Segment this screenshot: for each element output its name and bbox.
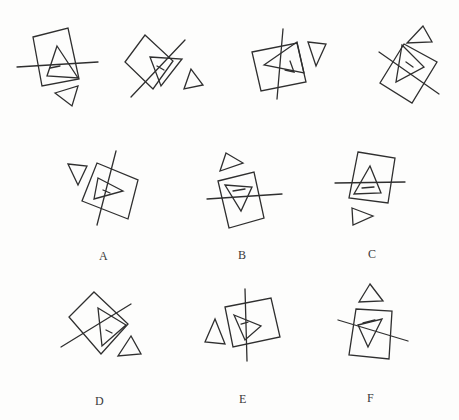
- figure-option-d: [61, 292, 141, 356]
- figure-stimulus-2: [125, 35, 203, 97]
- crossing-line: [245, 289, 247, 361]
- figure-option-e: [205, 289, 280, 361]
- figure-stimulus-3: [252, 29, 326, 99]
- square: [380, 44, 437, 103]
- small-triangle: [359, 284, 383, 302]
- square: [69, 292, 128, 354]
- large-triangle: [358, 319, 382, 347]
- large-triangle: [98, 308, 126, 346]
- small-triangle: [407, 26, 432, 43]
- small-triangle: [308, 42, 326, 66]
- triangle-hook: [241, 322, 248, 324]
- large-triangle: [264, 42, 304, 73]
- small-triangle: [118, 336, 141, 356]
- square: [82, 163, 138, 219]
- square: [125, 35, 173, 89]
- crossing-line: [335, 182, 405, 183]
- figure-option-a: [68, 151, 138, 225]
- puzzle-figures-canvas: [0, 0, 459, 420]
- small-triangle: [68, 164, 87, 185]
- small-triangle: [220, 153, 243, 171]
- figure-option-c: [335, 152, 405, 225]
- figure-option-b: [207, 153, 282, 228]
- triangle-hook: [106, 330, 112, 333]
- small-triangle: [205, 319, 225, 344]
- small-triangle: [55, 86, 78, 106]
- square: [218, 172, 264, 228]
- figure-stimulus-1: [17, 28, 98, 106]
- square: [252, 43, 306, 91]
- crossing-line: [131, 40, 185, 97]
- option-label-e: E: [239, 393, 246, 405]
- crossing-line: [97, 151, 116, 225]
- option-label-a: A: [99, 250, 108, 262]
- triangle-hook: [406, 62, 413, 67]
- large-triangle: [354, 166, 381, 194]
- small-triangle: [352, 208, 373, 225]
- option-label-f: F: [367, 392, 374, 404]
- puzzle-page: A B C D E F: [0, 0, 459, 420]
- figure-option-f: [338, 284, 408, 359]
- square: [349, 152, 395, 203]
- small-triangle: [184, 69, 203, 89]
- option-label-b: B: [238, 249, 246, 261]
- large-triangle: [234, 315, 261, 340]
- option-label-c: C: [368, 248, 376, 260]
- triangle-hook: [50, 66, 60, 68]
- triangle-hook: [233, 189, 245, 191]
- option-label-d: D: [95, 395, 104, 407]
- crossing-line: [61, 304, 131, 347]
- triangle-hook: [362, 187, 374, 188]
- crossing-line: [207, 194, 282, 199]
- crossing-line: [277, 29, 283, 99]
- figure-stimulus-4: [379, 26, 439, 103]
